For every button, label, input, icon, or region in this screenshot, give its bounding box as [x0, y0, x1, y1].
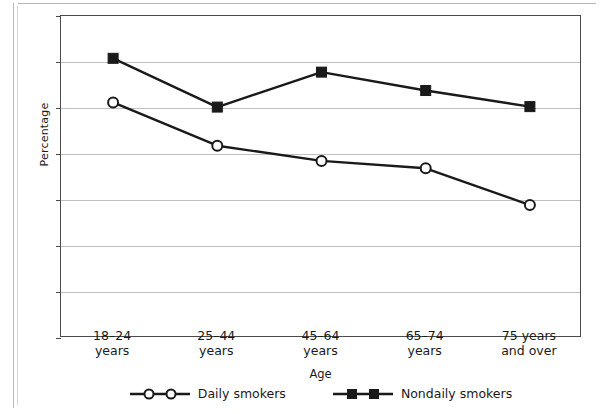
data-point-square [525, 102, 535, 112]
data-point-square [212, 102, 222, 112]
x-axis-title: Age [60, 367, 581, 381]
data-point-square [317, 67, 327, 77]
x-tick-label-line: 75 years [464, 328, 594, 343]
series-layer [61, 16, 582, 338]
plot-area: 010203040506070 [60, 15, 581, 337]
data-point-square [108, 53, 118, 63]
data-point-circle [212, 141, 222, 151]
legend-label: Daily smokers [198, 386, 286, 401]
legend-swatch-square-icon [332, 387, 394, 401]
chart-legend: Daily smokersNondaily smokers [60, 386, 581, 401]
legend-item[interactable]: Nondaily smokers [332, 386, 512, 401]
x-tick-label-line: and over [464, 343, 594, 358]
page-edge-left [13, 3, 14, 408]
data-point-square [421, 86, 431, 96]
x-tick-label: 75 yearsand over [464, 328, 594, 358]
chart-figure: Percentage 010203040506070 18–24years25–… [0, 0, 603, 414]
series-line [113, 58, 530, 107]
page-edge-left-inner [17, 6, 18, 405]
legend-label: Nondaily smokers [401, 386, 512, 401]
data-point-circle [525, 200, 535, 210]
data-point-circle [421, 163, 431, 173]
legend-swatch-circle-icon [129, 387, 191, 401]
data-point-circle [108, 97, 118, 107]
series-line [113, 102, 530, 205]
page-edge-top [18, 3, 596, 4]
legend-item[interactable]: Daily smokers [129, 386, 286, 401]
y-axis-title: Percentage [38, 75, 51, 195]
data-point-circle [317, 156, 327, 166]
